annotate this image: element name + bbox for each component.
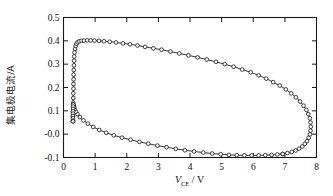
svg-text:0.1: 0.1 <box>48 106 60 116</box>
x-axis-label-subscript: CE <box>181 180 189 187</box>
svg-text:1: 1 <box>93 162 98 172</box>
svg-text:7: 7 <box>283 162 288 172</box>
plot-canvas: 012345678 -0.1-0.00.10.20.30.40.5 <box>0 0 333 196</box>
svg-text:2: 2 <box>124 162 129 172</box>
svg-text:0.3: 0.3 <box>48 59 60 69</box>
svg-text:3: 3 <box>156 162 161 172</box>
svg-text:-0.0: -0.0 <box>44 129 59 139</box>
x-axis-label-unit: / V <box>192 174 204 185</box>
chart-figure: 集电极电流/A 012345678 -0.1-0.00.10.20.30.40.… <box>0 0 333 196</box>
svg-text:0: 0 <box>61 162 66 172</box>
svg-text:5: 5 <box>219 162 224 172</box>
y-axis-label-container: 集电极电流/A <box>0 0 22 196</box>
svg-text:8: 8 <box>314 162 319 172</box>
svg-text:-0.1: -0.1 <box>44 153 59 163</box>
svg-text:0.5: 0.5 <box>48 13 60 23</box>
svg-text:4: 4 <box>188 162 193 172</box>
svg-text:6: 6 <box>251 162 256 172</box>
svg-text:0.4: 0.4 <box>48 36 60 46</box>
y-axis-label: 集电极电流/A <box>3 30 17 160</box>
svg-text:0.2: 0.2 <box>48 83 60 93</box>
x-axis-label: VCE / V <box>63 174 316 187</box>
